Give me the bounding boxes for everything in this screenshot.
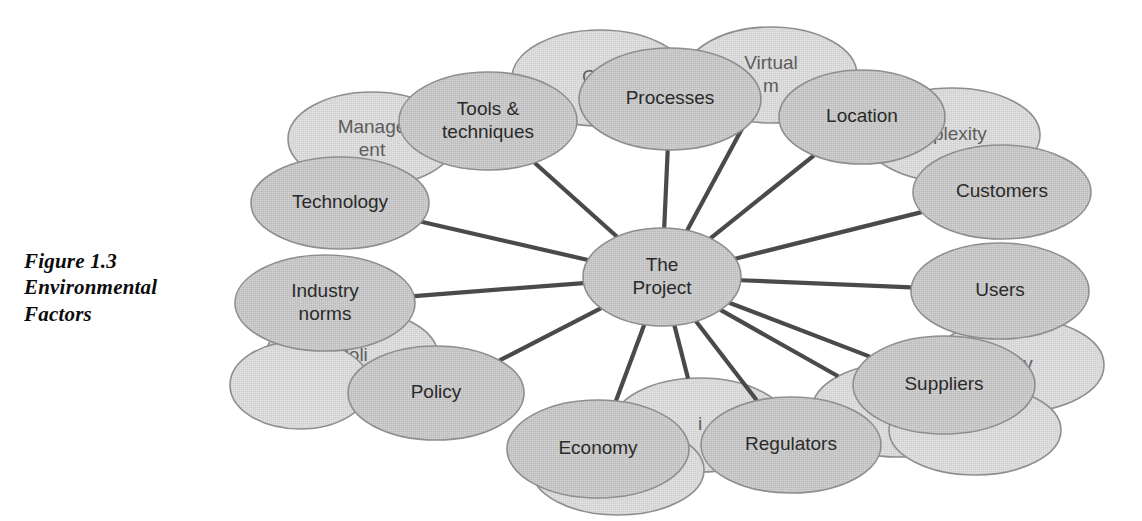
spoke-the-project-to-policy <box>499 308 601 360</box>
node-label-regulators: Regulators <box>745 433 837 454</box>
figure-page: Figure 1.3 Environmental Factors GeoVirt… <box>0 0 1142 521</box>
node-label-the-project: The <box>646 254 679 275</box>
node-label-virtual-team: m <box>763 75 779 96</box>
node-label-processes: Processes <box>626 87 715 108</box>
node-label-location: Location <box>826 105 898 126</box>
node-customers: Customers <box>913 145 1091 239</box>
node-label-tools-techniques: Tools & <box>457 98 520 119</box>
node-label-users: Users <box>975 279 1025 300</box>
node-label-suppliers: Suppliers <box>904 373 983 394</box>
node-tools-techniques: Tools &techniques <box>399 72 577 170</box>
node-economy: Economy <box>507 400 689 498</box>
node-label-tools-techniques: techniques <box>442 121 534 142</box>
node-label-policy: Policy <box>411 381 462 402</box>
node-label-unnamed-bottom: i <box>698 413 702 434</box>
node-users: Users <box>911 243 1089 339</box>
node-label-industry-norms: norms <box>299 303 352 324</box>
node-technology: Technology <box>251 157 429 249</box>
spoke-the-project-to-industry-norms <box>414 283 584 296</box>
node-label-industry-norms: Industry <box>291 280 359 301</box>
node-processes: Processes <box>579 48 761 150</box>
node-label-the-project: Project <box>632 277 692 298</box>
node-regulators: Regulators <box>701 397 881 493</box>
node-label-technology: Technology <box>292 191 389 212</box>
spoke-the-project-to-processes <box>664 150 668 228</box>
spoke-the-project-to-customers <box>735 212 921 259</box>
node-label-virtual-team: Virtual <box>744 52 798 73</box>
hub-layer: TheProject <box>583 228 741 326</box>
spoke-the-project-to-location <box>710 155 814 238</box>
node-the-project: TheProject <box>583 228 741 326</box>
spoke-the-project-to-suppliers <box>729 303 870 357</box>
node-label-management: Manage <box>338 116 407 137</box>
environmental-factors-diagram: GeoVirtualmmplexityManageentPolialtyKni … <box>0 0 1142 521</box>
spoke-the-project-to-technology <box>421 222 588 260</box>
spoke-the-project-to-economy <box>616 325 644 401</box>
node-label-customers: Customers <box>956 180 1048 201</box>
node-suppliers: Suppliers <box>853 336 1035 434</box>
spoke-the-project-to-users <box>741 280 911 287</box>
spoke-the-project-to-tools-techniques <box>535 163 617 237</box>
node-industry-norms: Industrynorms <box>235 255 415 351</box>
node-policy: Policy <box>348 346 524 440</box>
node-label-economy: Economy <box>558 437 638 458</box>
node-location: Location <box>779 70 945 164</box>
spoke-the-project-to-unnamed-bottom <box>674 325 688 378</box>
node-label-management: ent <box>359 139 386 160</box>
